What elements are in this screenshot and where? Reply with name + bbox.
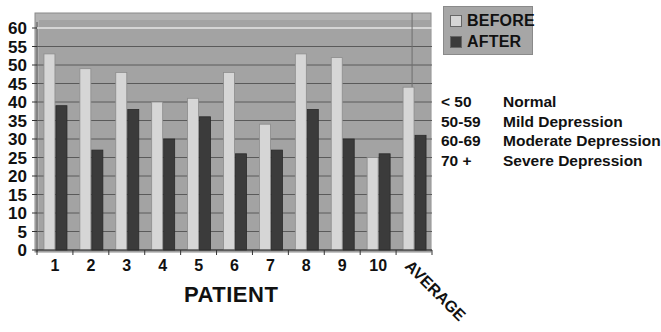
x-tick-label: 1 (51, 257, 60, 274)
x-tick-label: 10 (369, 257, 387, 274)
bar-before (331, 58, 342, 250)
x-tick-label: 2 (86, 257, 95, 274)
scale-range: < 50 (441, 92, 503, 112)
bar-before (367, 158, 378, 251)
x-tick-label: 6 (230, 257, 239, 274)
bar-before (295, 54, 306, 250)
legend-label-after: AFTER (467, 33, 521, 51)
bar-after (92, 150, 103, 250)
scale-label: Normal (503, 92, 556, 112)
y-tick-label: 40 (8, 93, 27, 112)
bar-after (379, 154, 390, 250)
bar-before (403, 87, 414, 250)
legend-label-before: BEFORE (467, 12, 535, 30)
bar-before (259, 124, 270, 250)
scale-row: 70 + Severe Depression (441, 151, 661, 171)
legend-item-before: BEFORE (450, 12, 535, 30)
bar-after (236, 154, 247, 250)
scale-label: Severe Depression (503, 151, 643, 171)
x-tick-label: 4 (158, 257, 167, 274)
y-tick-label: 55 (8, 38, 27, 57)
y-tick-label: 35 (8, 112, 27, 131)
y-tick-label: 25 (8, 149, 27, 168)
bar-after (164, 139, 175, 250)
scale-label: Moderate Depression (503, 131, 661, 151)
bar-after (200, 117, 211, 250)
bar-before (188, 98, 199, 250)
x-axis-title: PATIENT (184, 282, 278, 308)
bar-after (128, 109, 139, 250)
bar-after (343, 139, 354, 250)
bar-after (415, 135, 426, 250)
bar-before (224, 72, 235, 250)
y-tick-label: 50 (8, 56, 27, 75)
y-tick-label: 10 (8, 204, 27, 223)
legend-item-after: AFTER (450, 33, 521, 51)
bar-after (307, 109, 318, 250)
bar-after (56, 106, 67, 250)
x-tick-label: 8 (302, 257, 311, 274)
bar-before (80, 69, 91, 250)
y-tick-label: 60 (8, 19, 27, 38)
x-tick-label: 5 (194, 257, 203, 274)
scale-row: < 50 Normal (441, 92, 661, 112)
scale-range: 70 + (441, 151, 503, 171)
bar-before (44, 54, 55, 250)
after-swatch-icon (450, 36, 462, 48)
x-tick-label: AVERAGE (402, 257, 469, 324)
scale-label: Mild Depression (503, 112, 623, 132)
y-tick-label: 45 (8, 75, 27, 94)
x-tick-label: 9 (338, 257, 347, 274)
y-tick-label: 20 (8, 167, 27, 186)
bar-after (271, 150, 282, 250)
legend: BEFORE AFTER (443, 6, 533, 55)
bar-before (152, 102, 163, 250)
x-tick-label: 7 (266, 257, 275, 274)
bar-before (116, 72, 127, 250)
scale-range: 50-59 (441, 112, 503, 132)
y-tick-label: 15 (8, 186, 27, 205)
y-tick-label: 30 (8, 130, 27, 149)
scale-range: 60-69 (441, 131, 503, 151)
before-swatch-icon (450, 15, 462, 27)
scale-row: 50-59 Mild Depression (441, 112, 661, 132)
x-tick-label: 3 (122, 257, 131, 274)
depression-scale-key: < 50 Normal 50-59 Mild Depression 60-69 … (441, 92, 661, 170)
y-tick-label: 0 (18, 241, 27, 260)
scale-row: 60-69 Moderate Depression (441, 131, 661, 151)
y-tick-label: 5 (18, 223, 27, 242)
